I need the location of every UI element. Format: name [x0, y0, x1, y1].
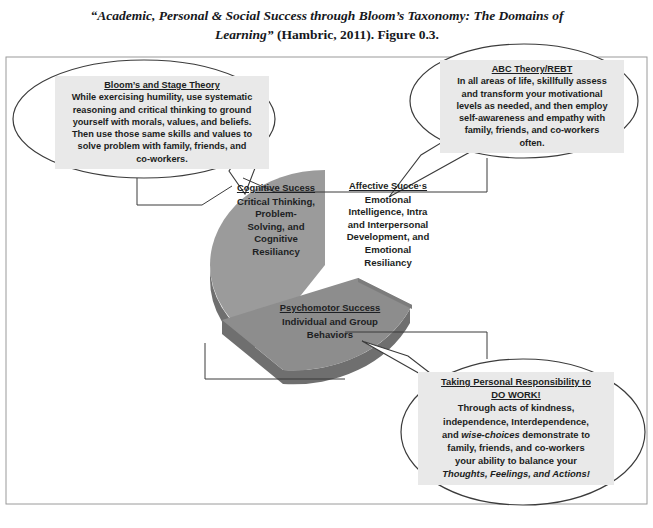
callout-responsibility-line-1: Through acts of kindness, [458, 402, 575, 413]
pie-label-affective-heading: Affective Succe·s [330, 180, 446, 193]
callout-bloom-text: Bloom’s and Stage Theory While exercisin… [55, 76, 269, 169]
callout-bloom-line-2: reasoning and critical thinking to groun… [73, 105, 252, 115]
callout-abc-line-4: self-awareness and empathy with [459, 113, 605, 123]
callout-abc-text: ABC Theory/REBT In all areas of life, sk… [440, 60, 624, 153]
pie-label-psychomotor-heading: Psychomotor Success [256, 302, 404, 315]
pie-label-affective-line-1: Emotional [330, 194, 446, 207]
callout-responsibility-line-3: and wise-choices demonstrate to [442, 429, 590, 440]
callout-bloom-heading: Bloom’s and Stage Theory [57, 79, 267, 91]
pie-label-psychomotor: Psychomotor Success Individual and Group… [256, 302, 404, 341]
pie-label-cognitive-line-5: Resiliancy [213, 246, 339, 259]
callout-responsibility-line-5: your ability to balance your [455, 455, 577, 466]
pie-label-psychomotor-line-2: Behaviors [256, 329, 404, 342]
pie-label-cognitive-line-1: Critical Thinking, [213, 196, 339, 209]
callout-responsibility-italic-1: wise-choices [461, 429, 519, 440]
pie-label-cognitive-line-4: Cognitive [213, 233, 339, 246]
pie-label-cognitive: Cognitive Sucess Critical Thinking, Prob… [213, 182, 339, 259]
callout-bloom-line-6: co-workers. [136, 154, 188, 164]
callout-responsibility-italic-2: Thoughts, Feelings, and Actions! [442, 468, 590, 479]
callout-responsibility-heading-1: Taking Personal Responsibility to [420, 375, 612, 388]
callout-abc-line-2: and transform your motivational [462, 89, 603, 99]
pie-label-cognitive-line-2: Problem- [213, 208, 339, 221]
callout-responsibility-line-4: family, friends, and co-workers [447, 442, 584, 453]
pie-label-affective-line-2: Intelligence, Intra [330, 206, 446, 219]
pie-label-affective-line-3: and Interpersonal [330, 219, 446, 232]
pie-label-cognitive-heading: Cognitive Sucess [213, 182, 339, 195]
callout-bloom-line-4: Then use those same skills and values to [72, 129, 252, 139]
callout-responsibility-line-2: independence, Interdependence, [443, 416, 589, 427]
callout-responsibility-heading-2: DO WORK! [420, 388, 612, 401]
pie-label-affective: Affective Succe·s Emotional Intelligence… [330, 180, 446, 269]
callout-abc-line-6: often. [519, 138, 544, 148]
pie-label-cognitive-line-3: Solving, and [213, 221, 339, 234]
callout-abc-line-3: levels as needed, and then employ [456, 101, 607, 111]
pie-label-affective-line-5: Emotional [330, 244, 446, 257]
callout-abc-line-5: family, friends, and co-workers [465, 125, 600, 135]
callout-responsibility-text: Taking Personal Responsibility to DO WOR… [418, 372, 614, 485]
callout-bloom-line-1: While exercising humility, use systemati… [72, 92, 253, 102]
figure-canvas: “Academic, Personal & Social Success thr… [0, 0, 653, 528]
callout-bloom-line-3: yourself with morals, values, and belief… [73, 117, 252, 127]
pie-label-affective-line-4: Development, and [330, 231, 446, 244]
pie-label-psychomotor-line-1: Individual and Group [256, 316, 404, 329]
callout-abc-heading: ABC Theory/REBT [442, 63, 622, 75]
callout-bloom-line-5: solve problem with family, friends, and [78, 141, 247, 151]
callout-abc-line-1: In all areas of life, skillfully assess [457, 76, 607, 86]
pie-label-affective-line-6: Resiliancy [330, 257, 446, 270]
